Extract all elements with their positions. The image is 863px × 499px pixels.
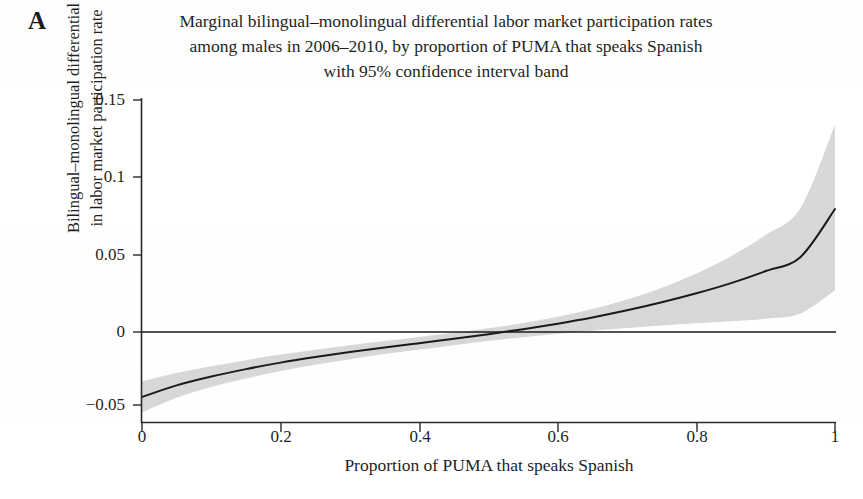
figure-panel-a: A Marginal bilingual–monolingual differe… (0, 0, 863, 499)
plot-area (0, 0, 863, 499)
x-axis-title: Proportion of PUMA that speaks Spanish (142, 455, 836, 476)
